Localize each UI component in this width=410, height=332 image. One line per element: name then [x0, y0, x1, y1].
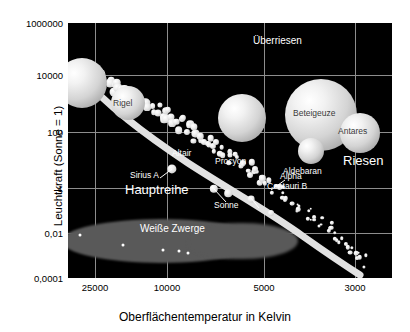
star-label-centauri-b: Centauri B [267, 181, 307, 191]
star-label-sonne: Sonne [214, 200, 239, 210]
star-label-beteigeuze: Beteigeuze [293, 108, 336, 118]
y-tick-label: 1000000 [0, 18, 63, 29]
y-tick-label: 1 [0, 183, 63, 194]
plot-area: Überriesen Riesen Hauptreihe Weiße Zwerg… [68, 23, 392, 278]
y-tick-label: 100 [0, 127, 63, 138]
star-label-rigel: Rigel [113, 98, 132, 108]
y-tick-label: 0,01 [0, 228, 63, 239]
x-tick-label: 10000 [154, 283, 180, 293]
x-tick-label: 5000 [253, 283, 274, 293]
region-label-weisse-zwerge: Weiße Zwerge [140, 223, 205, 234]
region-label-riesen: Riesen [343, 153, 383, 168]
star-label-procyon: Procyon [215, 156, 246, 166]
region-label-ueberriesen: Überriesen [253, 35, 302, 46]
hr-diagram-figure: Leuchtkraft (Sonne = 1) 1000000100001001… [0, 0, 410, 332]
y-tick-label: 0,0001 [0, 273, 63, 284]
x-tick-label: 3000 [344, 283, 365, 293]
y-axis-title: Leuchtkraft (Sonne = 1) [52, 106, 64, 227]
y-tick-label: 10000 [0, 70, 63, 81]
x-tick-label: 25000 [82, 283, 108, 293]
region-label-hauptreihe: Hauptreihe [125, 182, 189, 197]
x-axis-title: Oberflächentemperatur in Kelvin [0, 310, 410, 324]
star-label-altair: Altair [172, 148, 191, 158]
star-label-antares: Antares [338, 126, 367, 136]
star-label-alpha: Alpha [280, 171, 302, 181]
star-label-sirius-a: Sirius A [130, 170, 159, 180]
label-leader-lines [68, 23, 392, 278]
